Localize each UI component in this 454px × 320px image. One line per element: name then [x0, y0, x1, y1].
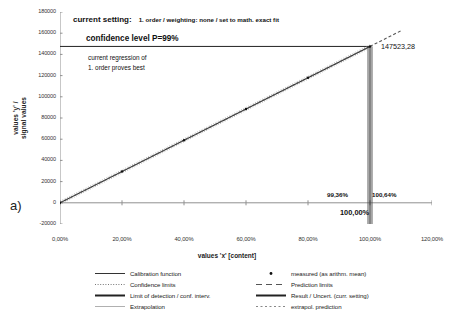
chart-legend: Calibration functionConfidence limitsLim…: [60, 268, 446, 316]
legend-swatch-solid-thin-icon: [94, 268, 128, 279]
legend-label: Result / Uncert. (curr. setting): [289, 292, 369, 299]
legend-label: extrapol. prediction: [289, 303, 342, 310]
measured-point: [307, 76, 309, 78]
legend-label: Calibration function: [128, 270, 181, 277]
x-tick-label: 100,00%: [348, 236, 392, 242]
y-tick-label: 180000: [12, 8, 56, 14]
y-tick-label: 40000: [12, 156, 56, 162]
legend-swatch-dotted-icon: [94, 279, 128, 290]
measured-point: [121, 170, 123, 172]
annotation-setting-label: current setting:: [73, 15, 132, 24]
measured-point: [183, 139, 185, 141]
y-tick-label: 20000: [12, 178, 56, 184]
annotation-regression-line1: current regression of: [88, 54, 147, 61]
annotation-setting-detail: 1. order / weighting: none / set to math…: [132, 16, 279, 23]
legend-swatch-dashed-long-icon: [255, 279, 289, 290]
legend-item[interactable]: Limit of detection / conf. interv.: [94, 290, 211, 301]
legend-item[interactable]: extrapol. prediction: [255, 301, 369, 312]
annotation-confidence-level: confidence level P=99%: [86, 34, 179, 43]
legend-item[interactable]: Result / Uncert. (curr. setting): [255, 290, 369, 301]
uncertainty-center-label: 100,00%: [340, 208, 369, 217]
legend-item[interactable]: Prediction limits: [255, 279, 369, 290]
y-tick-label: 120000: [12, 72, 56, 78]
x-tick-label: 60,00%: [224, 236, 268, 242]
x-tick-label: 40,00%: [162, 236, 206, 242]
legend-item[interactable]: measured (as arithm. mean): [255, 268, 369, 279]
uncertainty-upper-label: 100,64%: [372, 191, 396, 198]
legend-label: measured (as arithm. mean): [289, 270, 366, 277]
measured-point: [369, 45, 371, 47]
x-axis-title: values 'x' [content]: [0, 252, 454, 259]
legend-swatch-dashed-fine-icon: [255, 301, 289, 312]
y-tick-label: 100000: [12, 93, 56, 99]
legend-column-left: Calibration functionConfidence limitsLim…: [94, 268, 211, 312]
legend-item[interactable]: Calibration function: [94, 268, 211, 279]
result-value-label: 147523,28: [381, 42, 415, 51]
uncertainty-lower-label: 99,36%: [327, 191, 348, 198]
legend-label: Confidence limits: [128, 281, 176, 288]
legend-item[interactable]: Confidence limits: [94, 279, 211, 290]
legend-swatch-solid-thick-icon: [255, 290, 289, 301]
annotation-regression-line2: 1. order proves best: [88, 64, 145, 71]
y-tick-label: -20000: [12, 220, 56, 226]
y-tick-label: 60000: [12, 135, 56, 141]
x-tick-label: 0,00%: [38, 236, 82, 242]
x-tick-label: 120,00%: [410, 236, 454, 242]
legend-swatch-solid-light-icon: [94, 301, 128, 312]
y-tick-label: 160000: [12, 29, 56, 35]
y-tick-label: 80000: [12, 114, 56, 120]
legend-column-right: measured (as arithm. mean)Prediction lim…: [255, 268, 369, 312]
legend-label: Extrapolation: [128, 303, 165, 310]
legend-swatch-solid-thick-icon: [94, 290, 128, 301]
x-tick-label: 80,00%: [286, 236, 330, 242]
annotation-regression-note: current regression of 1. order proves be…: [88, 53, 147, 73]
annotation-current-setting: current setting:1. order / weighting: no…: [73, 15, 279, 24]
legend-label: Prediction limits: [289, 281, 333, 288]
y-tick-label: 0: [12, 199, 56, 205]
legend-swatch-marker-dot-icon: [255, 268, 289, 279]
chart-figure: a) values 'y' / signal values values 'x'…: [0, 0, 454, 320]
legend-label: Limit of detection / conf. interv.: [128, 292, 211, 299]
legend-item[interactable]: Extrapolation: [94, 301, 211, 312]
y-tick-label: 140000: [12, 50, 56, 56]
x-tick-label: 20,00%: [100, 236, 144, 242]
measured-point: [245, 108, 247, 110]
